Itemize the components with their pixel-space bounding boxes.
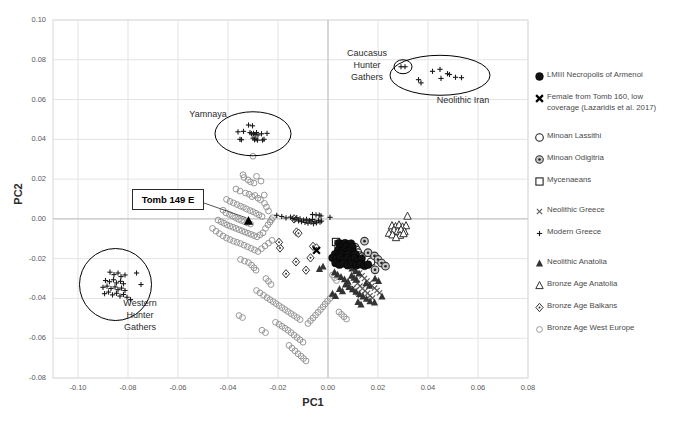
legend-marker-glyph xyxy=(536,95,543,102)
legend-marker-glyph xyxy=(536,260,543,267)
legend-marker-glyph xyxy=(537,209,542,214)
legend-item[interactable]: Modern Greece xyxy=(534,227,679,239)
legend-marker-glyph xyxy=(536,73,544,81)
legend-marker-glyph xyxy=(536,282,543,289)
x-tick-label: -0.10 xyxy=(56,383,100,392)
x-tick-label: -0.04 xyxy=(206,383,250,392)
pca-scatter-figure: 0.100.080.060.040.020.00-0.02-0.04-0.06-… xyxy=(0,0,681,423)
point-plus xyxy=(537,231,542,236)
point-x xyxy=(537,209,542,214)
x-axis-title: PC1 xyxy=(268,396,358,408)
point-dotted-circle xyxy=(371,266,379,274)
legend-item-label: Bronze Age Anatolia xyxy=(547,279,617,290)
legend-item-label: Minoan Lassithi xyxy=(547,131,601,142)
annotation-neolithic-iran: Neolithic Iran xyxy=(420,94,506,106)
point-dotted-circle xyxy=(382,262,390,270)
y-axis-title: PC2 xyxy=(12,164,24,224)
legend-item-label: Neolithic Greece xyxy=(547,205,605,216)
legend-item-label: Neolithic Anatolia xyxy=(547,257,607,268)
dotted-circle-icon xyxy=(534,154,547,165)
legend-item-label: Bronze Age Balkans xyxy=(547,301,617,312)
small-open-circle-icon xyxy=(534,324,547,335)
point-dotted-circle xyxy=(361,237,369,245)
x-tick-label: -0.06 xyxy=(156,383,200,392)
y-tick-label: -0.06 xyxy=(6,333,46,342)
legend-item[interactable]: Minoan Lassithi xyxy=(534,131,679,143)
legend-item-label: Bronze Age West Europe xyxy=(547,323,634,334)
legend-item[interactable]: Neolithic Anatolia xyxy=(534,257,679,269)
point-filled-circle xyxy=(364,261,372,269)
bold-x-icon xyxy=(534,93,547,104)
legend-marker-glyph xyxy=(536,134,544,142)
x-tick-label: 0.04 xyxy=(406,383,450,392)
annotation-yamnaya: Yamnaya xyxy=(178,108,238,120)
annotation-western-hunter-gathers: Western Hunter Gathers xyxy=(108,297,172,333)
legend-item[interactable]: Minoan Odigitria xyxy=(534,153,679,165)
point-small-open-circle xyxy=(537,327,543,333)
legend: LMIII Necropolis of ArmenoiFemale from T… xyxy=(534,70,679,345)
legend-marker-glyph xyxy=(537,231,542,236)
y-tick-label: -0.08 xyxy=(6,373,46,382)
y-tick-label: -0.04 xyxy=(6,293,46,302)
point-open-diamond xyxy=(536,303,543,311)
x-tick-label: -0.02 xyxy=(256,383,300,392)
y-tick-label: 0.04 xyxy=(6,134,46,143)
filled-triangle-icon xyxy=(534,258,547,269)
point-dotted-circle xyxy=(536,156,544,164)
legend-item-label: Female from Tomb 160, low coverage (Laza… xyxy=(547,92,656,113)
point-open-square xyxy=(536,178,543,185)
x-mark-icon xyxy=(534,206,547,217)
legend-marker-glyph xyxy=(536,178,543,185)
y-tick-label: 0.08 xyxy=(6,55,46,64)
legend-item-label: Modern Greece xyxy=(547,227,601,238)
x-tick-label: 0.08 xyxy=(506,383,550,392)
x-tick-label: 0.06 xyxy=(456,383,500,392)
point-filled-circle xyxy=(536,73,544,81)
y-tick-label: 0.06 xyxy=(6,95,46,104)
open-diamond-icon xyxy=(534,302,547,313)
annotation-caucasus-hunter-gathers: Caucasus Hunter Gathers xyxy=(330,47,404,83)
legend-item-label: Minoan Odigitria xyxy=(547,153,604,164)
plus-mark-icon xyxy=(534,228,547,239)
legend-item[interactable]: Bronze Age Balkans xyxy=(534,301,679,313)
point-bold-x xyxy=(536,95,543,102)
legend-item[interactable]: Mycenaeans xyxy=(534,175,679,187)
legend-item[interactable]: Female from Tomb 160, low coverage (Laza… xyxy=(534,92,679,113)
open-square-icon xyxy=(534,176,547,187)
y-tick-label: 0.10 xyxy=(6,15,46,24)
point-filled-triangle xyxy=(536,260,543,267)
x-tick-label: 0.00 xyxy=(306,383,350,392)
open-circle-icon xyxy=(534,132,547,143)
annotation-tomb-149e-callout: Tomb 149 E xyxy=(132,189,204,210)
legend-marker-glyph xyxy=(536,156,544,164)
legend-item[interactable]: Bronze Age West Europe xyxy=(534,323,679,335)
x-tick-label: 0.02 xyxy=(356,383,400,392)
legend-item[interactable]: LMIII Necropolis of Armenoi xyxy=(534,70,679,82)
x-tick-label: -0.08 xyxy=(106,383,150,392)
legend-item[interactable]: Neolithic Greece xyxy=(534,205,679,217)
legend-item-label: LMIII Necropolis of Armenoi xyxy=(547,70,643,81)
legend-item-label: Mycenaeans xyxy=(547,175,591,186)
y-tick-label: -0.02 xyxy=(6,254,46,263)
open-triangle-icon xyxy=(534,280,547,291)
legend-marker-glyph xyxy=(537,327,543,333)
point-open-circle xyxy=(536,134,544,142)
legend-item[interactable]: Bronze Age Anatolia xyxy=(534,279,679,291)
filled-circle-icon xyxy=(534,71,547,82)
legend-marker-glyph xyxy=(536,303,543,311)
point-open-triangle xyxy=(536,282,543,289)
